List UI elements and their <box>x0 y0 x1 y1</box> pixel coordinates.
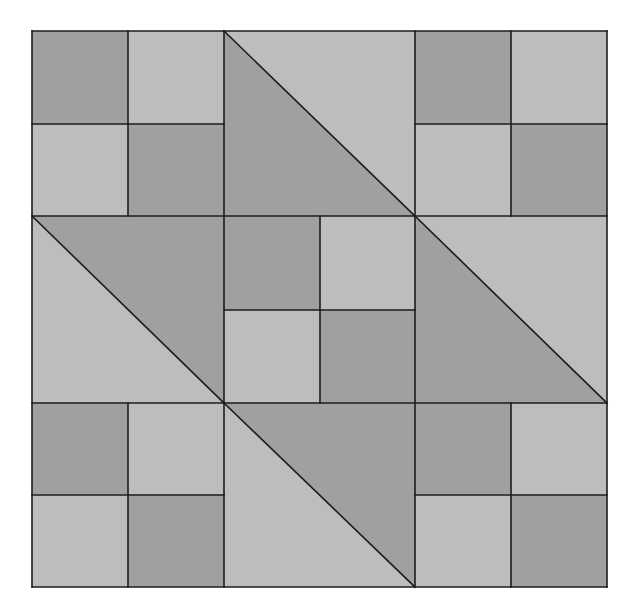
patch-square-light <box>511 403 607 495</box>
patch-square-light <box>128 31 224 124</box>
patch-square-dark <box>128 495 224 587</box>
patch-square-light <box>224 310 320 403</box>
patch-square-light <box>511 31 607 124</box>
patch-square-light <box>415 124 511 216</box>
patch-square-dark <box>32 403 128 495</box>
patch-square-dark <box>128 124 224 216</box>
patch-square-dark <box>320 310 415 403</box>
patch-square-dark <box>32 31 128 124</box>
patch-square-dark <box>224 216 320 310</box>
patch-square-dark <box>511 495 607 587</box>
patch-square-light <box>32 495 128 587</box>
patch-square-dark <box>415 31 511 124</box>
patch-square-dark <box>511 124 607 216</box>
patch-square-light <box>415 495 511 587</box>
patch-square-dark <box>415 403 511 495</box>
quilt-diagram <box>0 0 637 612</box>
patch-square-light <box>320 216 415 310</box>
patch-square-light <box>32 124 128 216</box>
patch-square-light <box>128 403 224 495</box>
